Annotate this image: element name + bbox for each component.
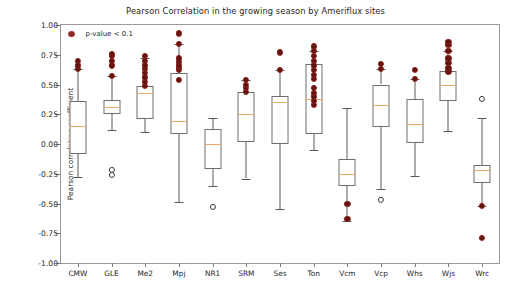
x-tick (280, 263, 281, 267)
chart-title: Pearson Correlation in the growing seaso… (0, 6, 511, 16)
outlier-point (479, 96, 485, 102)
legend-marker-icon (68, 31, 75, 38)
x-tick-label-me2: Me2 (137, 269, 153, 278)
y-tick-label: -0.75 (38, 229, 58, 238)
x-tick (448, 263, 449, 267)
x-tick (314, 263, 315, 267)
significant-point (479, 203, 485, 209)
x-tick-label-vcm: Vcm (339, 269, 355, 278)
x-tick-label-wjs: Wjs (442, 269, 455, 278)
y-tick-label: -1.00 (38, 259, 58, 268)
x-tick-label-srm: SRM (238, 269, 254, 278)
whisker-upper (482, 118, 483, 166)
x-tick-label-ses: Ses (273, 269, 286, 278)
x-tick (246, 263, 247, 267)
x-tick-label-wrc: Wrc (475, 269, 489, 278)
x-tick (78, 263, 79, 267)
plot-area: Pearson correlation coefficient 1.000.75… (60, 24, 500, 264)
y-tick-label: -0.25 (38, 169, 58, 178)
boxplot-wrc (61, 25, 499, 263)
y-tick-label: 1.00 (41, 21, 58, 30)
x-tick-label-vcp: Vcp (374, 269, 388, 278)
x-tick (213, 263, 214, 267)
x-tick-label-ton: Ton (307, 269, 319, 278)
x-tick (145, 263, 146, 267)
y-tick-label: -0.50 (38, 199, 58, 208)
x-tick-label-mpj: Mpj (172, 269, 185, 278)
x-tick (482, 263, 483, 267)
x-tick (381, 263, 382, 267)
y-tick-label: 0.25 (41, 110, 58, 119)
whisker-cap-upper (478, 118, 487, 119)
chart-figure: Pearson Correlation in the growing seaso… (0, 0, 511, 301)
y-tick-label: 0.75 (41, 50, 58, 59)
x-tick-label-whs: Whs (407, 269, 423, 278)
x-tick (415, 263, 416, 267)
y-tick-label: 0.50 (41, 80, 58, 89)
x-tick (347, 263, 348, 267)
legend: p-value < 0.1 (65, 28, 139, 40)
x-tick (112, 263, 113, 267)
y-tick-label: 0.00 (41, 140, 58, 149)
legend-label: p-value < 0.1 (86, 30, 133, 38)
x-tick (179, 263, 180, 267)
x-tick-label-nr1: NR1 (205, 269, 220, 278)
significant-point (479, 235, 485, 241)
median-line (474, 170, 491, 171)
box-iqr (474, 165, 491, 183)
x-tick-label-gle: GLE (104, 269, 119, 278)
x-tick-label-cmw: CMW (68, 269, 87, 278)
